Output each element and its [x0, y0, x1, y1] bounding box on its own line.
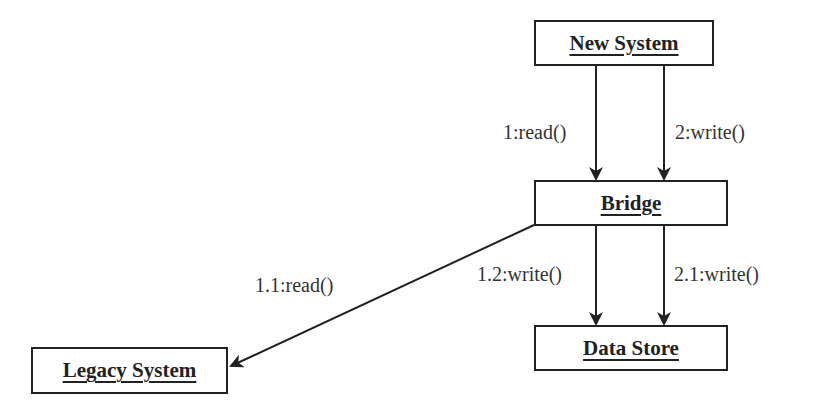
- object-new-system: New System: [534, 20, 714, 66]
- object-bridge: Bridge: [534, 180, 728, 226]
- object-label: Data Store: [583, 336, 679, 361]
- message-label-1-2-write: 1.2:write(): [477, 263, 562, 286]
- message-label-2-write: 2:write(): [675, 121, 745, 144]
- message-label-1-1-read: 1.1:read(): [255, 274, 333, 297]
- object-legacy-system: Legacy System: [31, 347, 228, 394]
- object-label: New System: [569, 31, 678, 56]
- object-data-store: Data Store: [534, 325, 728, 371]
- message-label-2-1-write: 2.1:write(): [674, 263, 759, 286]
- object-label: Legacy System: [63, 358, 197, 383]
- object-label: Bridge: [601, 191, 662, 216]
- message-label-1-read: 1:read(): [503, 121, 566, 144]
